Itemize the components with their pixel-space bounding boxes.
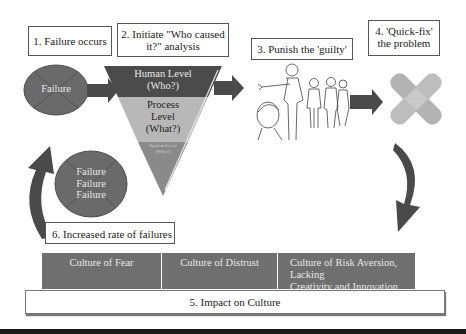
failure-text-2: Failure: [61, 178, 121, 190]
step-5-label: 5. Impact on Culture: [25, 290, 445, 314]
process-level-question: (What?): [128, 123, 198, 135]
arrow-right-icon: [350, 89, 383, 115]
bandage-icon: [387, 70, 445, 128]
people-illustration: [257, 64, 349, 140]
curved-arrow-down-icon: [393, 143, 420, 232]
arrow-right-icon: [214, 75, 244, 101]
culture-of-distrust: Culture of Distrust: [162, 253, 278, 289]
culture-distrust-text: Culture of Distrust: [180, 257, 259, 268]
funnel-level-system: System Level (Why?): [140, 143, 186, 155]
step-6-text: 6. Increased rate of failures: [52, 228, 172, 240]
process-level-title: Process: [128, 99, 198, 111]
footer-divider: [0, 329, 466, 334]
failure-text-3: Failure: [61, 189, 121, 201]
funnel-level-human: Human Level (Who?): [120, 68, 206, 92]
system-level-question: (Why?): [140, 149, 186, 155]
human-level-title: Human Level: [120, 68, 206, 80]
process-level-title-2: Level: [128, 111, 198, 123]
funnel-level-process: Process Level (What?): [128, 99, 198, 135]
human-level-question: (Who?): [120, 80, 206, 92]
culture-of-fear: Culture of Fear: [42, 253, 162, 289]
failure-text-1: Failure: [61, 166, 121, 178]
culture-of-risk-aversion: Culture of Risk Aversion, Lacking Creati…: [278, 253, 415, 289]
culture-risk-text-line1: Culture of Risk Aversion, Lacking: [290, 257, 415, 281]
step-6-label: 6. Increased rate of failures: [45, 222, 175, 244]
repeat-failure-label: Failure Failure Failure: [61, 166, 121, 201]
step-5-text: 5. Impact on Culture: [189, 296, 280, 308]
failure-oval-label: Failure: [30, 83, 82, 94]
culture-fear-text: Culture of Fear: [69, 257, 133, 268]
